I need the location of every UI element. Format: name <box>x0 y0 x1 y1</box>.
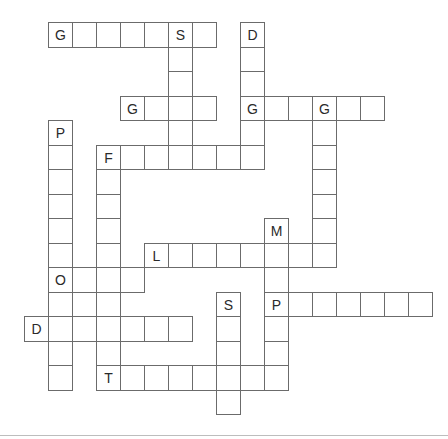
crossword-cell[interactable] <box>96 292 121 318</box>
crossword-cell[interactable] <box>48 145 73 171</box>
crossword-cell[interactable]: G <box>312 96 337 122</box>
crossword-cell[interactable] <box>312 120 337 146</box>
crossword-cell[interactable] <box>144 365 169 391</box>
crossword-cell[interactable] <box>192 145 217 171</box>
crossword-cell[interactable] <box>48 243 73 269</box>
crossword-cell[interactable]: P <box>48 120 73 146</box>
crossword-cell[interactable] <box>216 243 241 269</box>
crossword-cell[interactable] <box>192 365 217 391</box>
crossword-cell[interactable] <box>144 96 169 122</box>
crossword-cell[interactable] <box>240 365 265 391</box>
crossword-cell[interactable] <box>360 96 385 122</box>
crossword-cell[interactable] <box>240 71 265 97</box>
crossword-cell[interactable] <box>96 22 121 48</box>
crossword-cell[interactable] <box>312 169 337 195</box>
crossword-cell[interactable] <box>144 145 169 171</box>
crossword-cell[interactable] <box>120 22 145 48</box>
crossword-cell[interactable] <box>216 390 241 416</box>
crossword-cell[interactable] <box>120 267 145 293</box>
crossword-cell[interactable] <box>216 365 241 391</box>
crossword-cell[interactable] <box>120 145 145 171</box>
crossword-cell[interactable] <box>216 145 241 171</box>
crossword-cell[interactable] <box>240 145 265 171</box>
crossword-cell[interactable] <box>312 218 337 244</box>
crossword-cell[interactable] <box>192 96 217 122</box>
crossword-cell[interactable] <box>216 316 241 342</box>
crossword-cell[interactable]: M <box>264 218 289 244</box>
crossword-cell[interactable]: P <box>264 292 289 318</box>
crossword-cell[interactable] <box>144 316 169 342</box>
crossword-cell[interactable] <box>264 316 289 342</box>
crossword-cell[interactable] <box>168 71 193 97</box>
crossword-cell[interactable] <box>288 243 313 269</box>
crossword-cell[interactable] <box>72 316 97 342</box>
crossword-cell[interactable] <box>168 96 193 122</box>
crossword-cell[interactable] <box>48 194 73 220</box>
crossword-cell[interactable] <box>408 292 433 318</box>
crossword-cell[interactable] <box>144 22 169 48</box>
crossword-cell[interactable] <box>216 341 241 367</box>
crossword-cell[interactable] <box>192 243 217 269</box>
crossword-cell[interactable]: F <box>96 145 121 171</box>
crossword-cell[interactable] <box>264 365 289 391</box>
crossword-cell[interactable] <box>240 47 265 73</box>
crossword-cell[interactable] <box>48 218 73 244</box>
crossword-cell[interactable] <box>264 243 289 269</box>
crossword-cell[interactable] <box>288 292 313 318</box>
given-letter: L <box>145 248 168 264</box>
crossword-cell[interactable] <box>48 341 73 367</box>
crossword-cell[interactable] <box>168 365 193 391</box>
crossword-cell[interactable] <box>48 169 73 195</box>
crossword-cell[interactable] <box>72 267 97 293</box>
crossword-cell[interactable]: O <box>48 267 73 293</box>
crossword-cell[interactable] <box>288 96 313 122</box>
given-letter: P <box>265 297 288 313</box>
crossword-cell[interactable] <box>264 96 289 122</box>
crossword-cell[interactable] <box>120 365 145 391</box>
crossword-cell[interactable]: D <box>240 22 265 48</box>
crossword-cell[interactable]: G <box>240 96 265 122</box>
crossword-cell[interactable]: G <box>48 22 73 48</box>
given-letter: T <box>97 370 120 386</box>
crossword-cell[interactable] <box>240 243 265 269</box>
crossword-cell[interactable] <box>48 365 73 391</box>
crossword-cell[interactable] <box>312 243 337 269</box>
crossword-cell[interactable] <box>192 22 217 48</box>
crossword-cell[interactable] <box>312 194 337 220</box>
crossword-cell[interactable] <box>168 243 193 269</box>
crossword-cell[interactable] <box>384 292 409 318</box>
crossword-cell[interactable]: L <box>144 243 169 269</box>
crossword-cell[interactable] <box>168 145 193 171</box>
crossword-cell[interactable] <box>168 316 193 342</box>
crossword-cell[interactable] <box>48 316 73 342</box>
crossword-cell[interactable]: G <box>120 96 145 122</box>
crossword-cell[interactable] <box>96 316 121 342</box>
crossword-cell[interactable] <box>336 292 361 318</box>
crossword-cell[interactable] <box>264 267 289 293</box>
crossword-cell[interactable]: S <box>216 292 241 318</box>
crossword-cell[interactable] <box>96 267 121 293</box>
crossword-cell[interactable] <box>120 316 145 342</box>
crossword-cell[interactable] <box>96 243 121 269</box>
crossword-cell[interactable] <box>72 22 97 48</box>
crossword-cell[interactable] <box>312 145 337 171</box>
crossword-cell[interactable] <box>336 96 361 122</box>
crossword-cell[interactable] <box>168 47 193 73</box>
crossword-cell[interactable] <box>360 292 385 318</box>
crossword-cell[interactable] <box>240 120 265 146</box>
crossword-cell[interactable]: S <box>168 22 193 48</box>
given-letter: D <box>25 321 48 337</box>
given-letter: S <box>217 297 240 313</box>
crossword-cell[interactable] <box>168 120 193 146</box>
given-letter: G <box>49 27 72 43</box>
crossword-cell[interactable] <box>96 341 121 367</box>
crossword-cell[interactable]: T <box>96 365 121 391</box>
crossword-cell[interactable] <box>48 292 73 318</box>
crossword-cell[interactable] <box>96 218 121 244</box>
crossword-cell[interactable]: D <box>24 316 49 342</box>
given-letter: P <box>49 125 72 141</box>
crossword-cell[interactable] <box>312 292 337 318</box>
crossword-cell[interactable] <box>264 341 289 367</box>
crossword-cell[interactable] <box>96 194 121 220</box>
crossword-cell[interactable] <box>96 169 121 195</box>
